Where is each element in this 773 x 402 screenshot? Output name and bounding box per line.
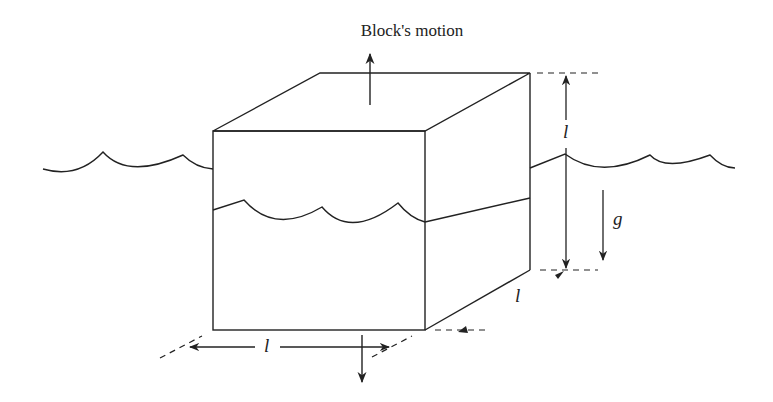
cube-block bbox=[213, 73, 530, 330]
depth-label: l bbox=[515, 285, 520, 306]
waterline-right bbox=[425, 198, 530, 222]
water-surface-right bbox=[530, 154, 735, 168]
width-label: l bbox=[264, 335, 269, 356]
cube-front-face bbox=[213, 131, 425, 330]
waterline-front bbox=[213, 200, 425, 223]
height-label: l bbox=[563, 121, 568, 142]
cube-top-face bbox=[213, 73, 530, 131]
water-surface-left bbox=[43, 152, 213, 172]
block-motion-label: Block's motion bbox=[361, 21, 464, 40]
gravity-label: g bbox=[613, 208, 623, 229]
floating-block-diagram: Block's motion l g l l bbox=[0, 0, 773, 402]
arrowhead-mark-icon bbox=[555, 271, 564, 279]
